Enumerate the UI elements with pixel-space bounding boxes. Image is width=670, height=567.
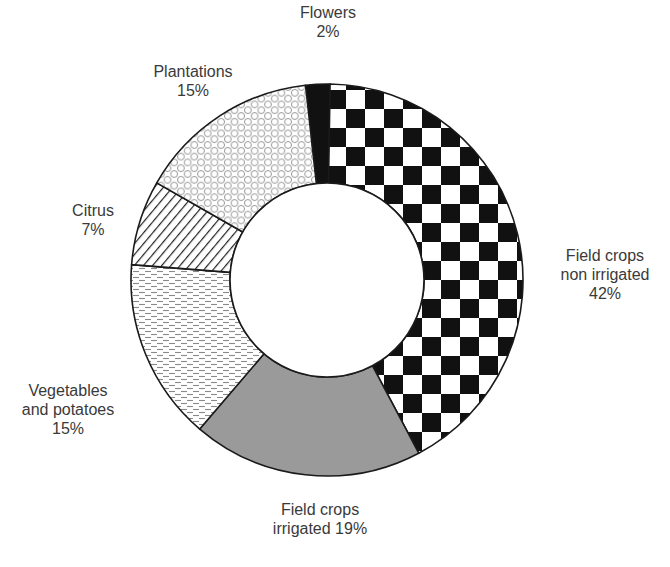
label-vegetables-and-potatoes: Vegetablesand potatoes15% bbox=[22, 381, 115, 438]
label-line: non irrigated bbox=[561, 265, 650, 284]
label-line: Plantations bbox=[153, 62, 232, 81]
label-field-crops-non-irrigated: Field cropsnon irrigated42% bbox=[561, 246, 650, 303]
label-line: 2% bbox=[300, 22, 356, 41]
label-line: 7% bbox=[72, 220, 114, 239]
label-plantations: Plantations15% bbox=[153, 62, 232, 100]
donut-slices bbox=[131, 84, 523, 476]
donut-hole bbox=[230, 183, 424, 377]
label-citrus: Citrus7% bbox=[72, 201, 114, 239]
label-field-crops-irrigated: Field cropsirrigated 19% bbox=[273, 500, 367, 538]
label-line: and potatoes bbox=[22, 400, 115, 419]
label-line: 15% bbox=[153, 81, 232, 100]
label-line: Flowers bbox=[300, 3, 356, 22]
label-flowers: Flowers2% bbox=[300, 3, 356, 41]
label-line: Field crops bbox=[273, 500, 367, 519]
label-line: Field crops bbox=[561, 246, 650, 265]
label-line: 42% bbox=[561, 284, 650, 303]
label-line: 15% bbox=[22, 419, 115, 438]
label-line: Vegetables bbox=[22, 381, 115, 400]
label-line: Citrus bbox=[72, 201, 114, 220]
label-line: irrigated 19% bbox=[273, 519, 367, 538]
